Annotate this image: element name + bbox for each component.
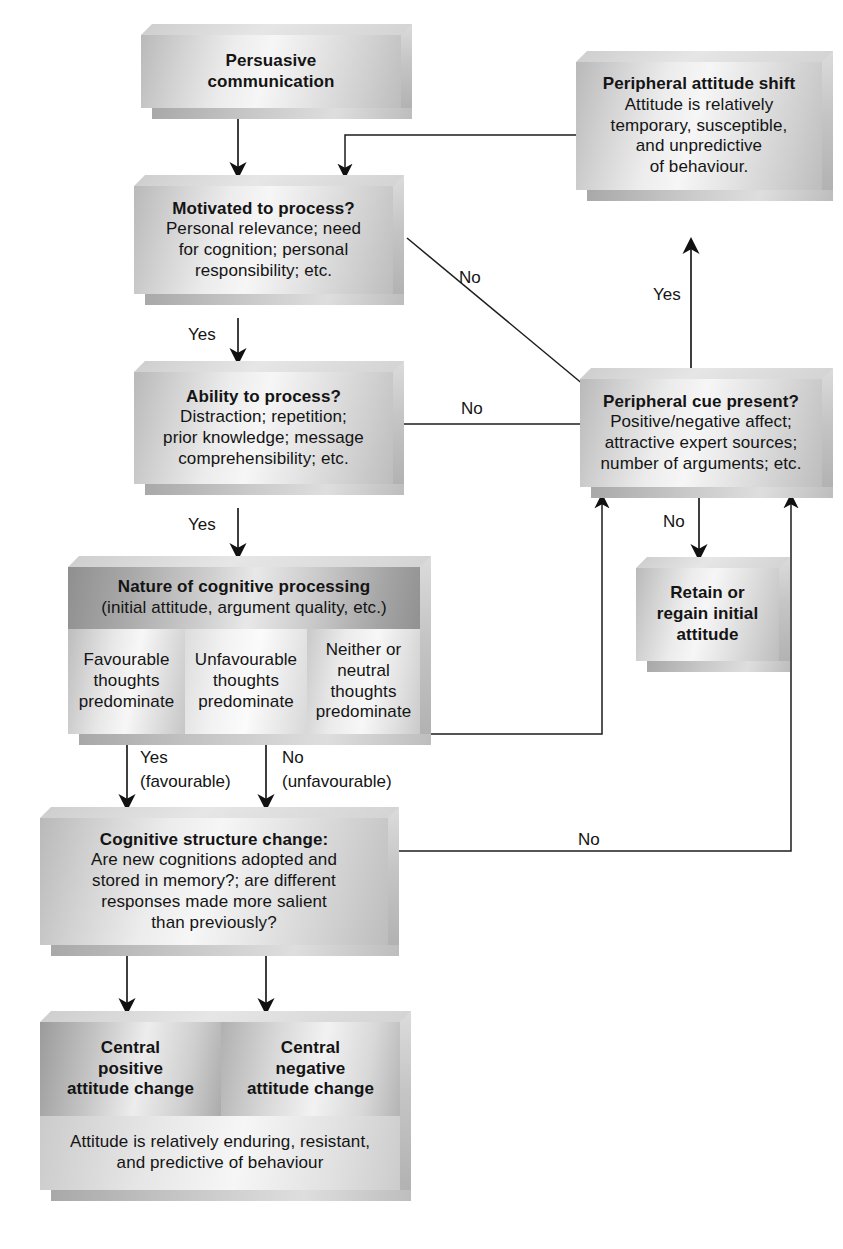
box-top-bevel	[636, 557, 790, 568]
central-positive-line2: positive	[98, 1059, 163, 1080]
edge-motivated-no	[407, 238, 596, 395]
central-positive-line1: Central	[101, 1038, 160, 1059]
central-negative-line2: negative	[276, 1059, 346, 1080]
edge-cognitive-no-to-cue	[388, 496, 791, 851]
peripheral-attitude-shift-line4: of behaviour.	[650, 157, 749, 178]
nature-of-cognitive-processing-title: Nature of cognitive processing	[118, 577, 370, 598]
retain-or-regain-line2: regain initial	[657, 604, 759, 625]
cell-neutral-line3: predominate	[316, 702, 412, 723]
cell-unfavourable-line3: predominate	[198, 692, 294, 713]
cognitive-structure-change-line2: stored in memory?; are different	[92, 871, 336, 892]
cognitive-structure-change-line1: Are new cognitions adopted and	[91, 850, 337, 871]
central-negative-line3: attitude change	[247, 1079, 374, 1100]
peripheral-cue-present-line2: attractive expert sources;	[605, 433, 798, 454]
cell-neutral-line2: neutral thoughts	[307, 661, 420, 702]
edge-label-motivated-no: No	[459, 268, 481, 288]
cell-favourable-thoughts[interactable]: Favourable thoughts predominate	[68, 629, 185, 734]
peripheral-attitude-shift-line2: temporary, susceptible,	[611, 116, 788, 137]
box-top-bevel	[576, 51, 833, 62]
edge-label-favourable-yes: Yes	[140, 748, 168, 768]
box-top-bevel	[68, 556, 431, 567]
ability-to-process-line2: prior knowledge; message	[163, 428, 364, 449]
cognitive-structure-change-title: Cognitive structure change:	[100, 830, 328, 851]
box-top-bevel	[134, 175, 404, 186]
edge-label-cognitive-structure-no: No	[578, 830, 600, 850]
node-nature-of-cognitive-processing[interactable]: Nature of cognitive processing (initial …	[68, 567, 420, 734]
motivated-to-process-title: Motivated to process?	[172, 199, 355, 220]
edge-label-unfavourable-no-paren: (unfavourable)	[282, 772, 392, 792]
peripheral-cue-present-line1: Positive/negative affect;	[610, 412, 792, 433]
cell-unfavourable-line1: Unfavourable	[195, 650, 297, 671]
node-motivated-to-process[interactable]: Motivated to process? Personal relevance…	[134, 186, 393, 294]
cell-unfavourable-thoughts[interactable]: Unfavourable thoughts predominate	[185, 629, 307, 734]
ability-to-process-line1: Distraction; repetition;	[180, 407, 347, 428]
node-cognitive-structure-change[interactable]: Cognitive structure change: Are new cogn…	[40, 818, 388, 945]
ability-to-process-line3: comprehensibility; etc.	[178, 449, 348, 470]
persuasive-communication-title-line1: Persuasive	[226, 51, 317, 72]
cognitive-structure-change-line4: than previously?	[151, 913, 276, 934]
edge-label-ability-yes: Yes	[188, 515, 216, 535]
node-peripheral-cue-present[interactable]: Peripheral cue present? Positive/negativ…	[580, 379, 822, 487]
node-persuasive-communication[interactable]: Persuasive communication	[141, 35, 401, 108]
central-attitude-change-footer: Attitude is relatively enduring, resista…	[40, 1116, 400, 1190]
edge-label-favourable-yes-paren: (favourable)	[140, 772, 231, 792]
nature-of-cognitive-processing-header: Nature of cognitive processing (initial …	[68, 567, 420, 629]
node-central-attitude-change[interactable]: Central positive attitude change Central…	[40, 1022, 400, 1190]
retain-or-regain-line1: Retain or	[670, 583, 745, 604]
central-positive-line3: attitude change	[67, 1079, 194, 1100]
cell-favourable-line2: thoughts	[93, 671, 159, 692]
cell-neutral-line1: Neither or	[326, 640, 402, 661]
cognitive-structure-change-line3: responses made more salient	[101, 892, 327, 913]
box-top-bevel	[141, 24, 412, 35]
peripheral-attitude-shift-title: Peripheral attitude shift	[603, 74, 795, 95]
persuasive-communication-title-line2: communication	[208, 72, 335, 93]
nature-of-cognitive-processing-subtitle: (initial attitude, argument quality, etc…	[101, 598, 386, 619]
cell-favourable-line1: Favourable	[83, 650, 169, 671]
peripheral-attitude-shift-line3: and unpredictive	[636, 136, 762, 157]
edge-label-motivated-yes: Yes	[188, 325, 216, 345]
node-peripheral-attitude-shift[interactable]: Peripheral attitude shift Attitude is re…	[576, 62, 822, 190]
cell-unfavourable-line2: thoughts	[213, 671, 279, 692]
node-retain-or-regain-attitude[interactable]: Retain or regain initial attitude	[636, 568, 779, 661]
central-attitude-footer-line2: and predictive of behaviour	[117, 1153, 324, 1174]
edge-neutral-to-cue	[420, 496, 602, 734]
motivated-to-process-line3: responsibility; etc.	[195, 261, 332, 282]
cell-favourable-line3: predominate	[79, 692, 175, 713]
peripheral-cue-present-title: Peripheral cue present?	[603, 392, 799, 413]
retain-or-regain-line3: attitude	[676, 625, 738, 646]
central-attitude-footer-line1: Attitude is relatively enduring, resista…	[70, 1132, 370, 1153]
node-ability-to-process[interactable]: Ability to process? Distraction; repetit…	[134, 372, 393, 484]
motivated-to-process-line1: Personal relevance; need	[166, 219, 361, 240]
cell-neutral-thoughts[interactable]: Neither or neutral thoughts predominate	[307, 629, 420, 734]
central-negative-line1: Central	[281, 1038, 340, 1059]
edge-label-cue-yes: Yes	[653, 285, 681, 305]
motivated-to-process-line2: for cognition; personal	[179, 240, 349, 261]
cell-central-positive[interactable]: Central positive attitude change	[40, 1022, 221, 1116]
edge-label-cue-no: No	[663, 512, 685, 532]
box-top-bevel	[40, 1011, 411, 1022]
box-top-bevel	[40, 807, 399, 818]
edge-label-unfavourable-no: No	[282, 748, 304, 768]
peripheral-cue-present-line3: number of arguments; etc.	[601, 454, 802, 475]
ability-to-process-title: Ability to process?	[186, 387, 341, 408]
edge-shift-to-motivated	[345, 135, 576, 176]
box-top-bevel	[580, 368, 833, 379]
box-top-bevel	[134, 361, 404, 372]
peripheral-attitude-shift-line1: Attitude is relatively	[625, 95, 774, 116]
edge-label-ability-no: No	[461, 399, 483, 419]
flowchart-canvas: Persuasive communication Peripheral atti…	[0, 0, 843, 1249]
cell-central-negative[interactable]: Central negative attitude change	[221, 1022, 400, 1116]
